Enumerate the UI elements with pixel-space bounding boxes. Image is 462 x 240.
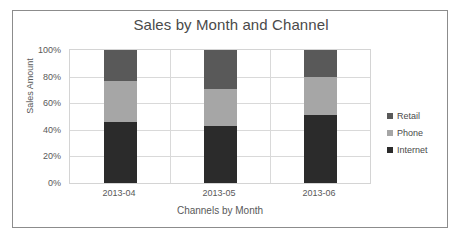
y-axis-tick-label: 20% (43, 151, 61, 161)
legend-label: Phone (397, 128, 423, 138)
chart-title: Sales by Month and Channel (13, 16, 449, 33)
legend-item-retail[interactable]: Retail (387, 107, 449, 124)
x-axis-tick-label: 2013-04 (102, 188, 135, 198)
y-axis-tick-label: 40% (43, 125, 61, 135)
bar-segment-phone[interactable] (304, 77, 337, 116)
y-axis-tick-label: 60% (43, 98, 61, 108)
bar-segment-retail[interactable] (104, 50, 137, 81)
x-axis-tick-label: 2013-05 (202, 188, 235, 198)
bar-group[interactable] (204, 50, 237, 183)
legend-item-phone[interactable]: Phone (387, 124, 449, 141)
x-axis-tick-labels: 2013-042013-052013-06 (69, 188, 371, 202)
x-axis-tick-label: 2013-06 (302, 188, 335, 198)
bar-group[interactable] (304, 50, 337, 183)
legend-item-internet[interactable]: Internet (387, 141, 449, 158)
chart-frame: Sales by Month and Channel Sales Amount … (12, 10, 448, 228)
x-axis-title: Channels by Month (69, 205, 371, 216)
chart-legend: RetailPhoneInternet (387, 107, 449, 158)
legend-swatch-icon (387, 113, 393, 119)
bar-segment-retail[interactable] (304, 50, 337, 77)
bar-group[interactable] (104, 50, 137, 183)
legend-label: Internet (397, 145, 428, 155)
gridline-vertical (270, 50, 271, 183)
y-axis-tick-labels: 0%20%40%60%80%100% (13, 49, 65, 184)
bar-segment-phone[interactable] (204, 89, 237, 126)
bar-segment-phone[interactable] (104, 81, 137, 122)
gridline-vertical (170, 50, 171, 183)
y-axis-tick-label: 0% (48, 178, 61, 188)
bar-segment-retail[interactable] (204, 50, 237, 89)
bar-segment-internet[interactable] (104, 122, 137, 183)
bar-segment-internet[interactable] (304, 115, 337, 183)
legend-label: Retail (397, 111, 420, 121)
legend-swatch-icon (387, 130, 393, 136)
plot-area (69, 49, 371, 184)
y-axis-tick-label: 80% (43, 72, 61, 82)
y-axis-tick-label: 100% (38, 45, 61, 55)
bar-segment-internet[interactable] (204, 126, 237, 183)
legend-swatch-icon (387, 147, 393, 153)
